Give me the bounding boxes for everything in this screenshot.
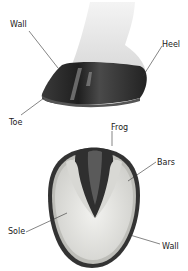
side-view-hoof xyxy=(42,2,147,107)
label-toe: Toe xyxy=(9,119,22,127)
hoof-illustration xyxy=(0,0,188,271)
hoof-diagram: Wall Heel Toe Frog Bars Sole Wall xyxy=(0,0,188,271)
label-frog: Frog xyxy=(111,124,128,132)
label-bars: Bars xyxy=(157,159,175,167)
label-heel: Heel xyxy=(162,41,180,49)
label-wall-side: Wall xyxy=(10,21,27,29)
label-sole: Sole xyxy=(8,228,25,236)
label-wall-bottom: Wall xyxy=(162,243,179,251)
bottom-view-hoof xyxy=(48,148,140,269)
